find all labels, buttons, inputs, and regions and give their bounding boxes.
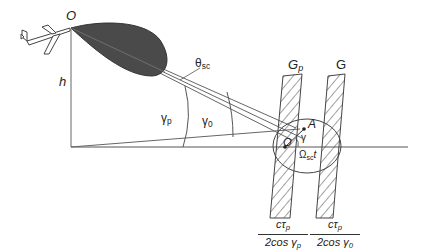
label-gamma-0: γ0 <box>202 115 213 128</box>
label-gamma-p: γp <box>161 112 172 125</box>
fraction-g-num: cτp <box>310 219 360 235</box>
fraction-gp-num: cτp <box>258 219 308 235</box>
fraction-gp-width: cτp 2cos γp <box>258 219 308 249</box>
omega-t: t <box>313 149 316 160</box>
airplane-icon <box>21 25 70 54</box>
label-origin: O <box>66 9 76 22</box>
label-strip-g: G <box>336 58 346 71</box>
strip-gp-symbol: G <box>288 57 298 72</box>
theta-sub: sc <box>202 61 210 71</box>
label-point-a: A <box>308 118 316 130</box>
label-strip-gp: Gp <box>288 58 303 73</box>
point-a <box>302 127 306 131</box>
strip-gp-sub: p <box>298 63 303 73</box>
fraction-g-num-main: cτ <box>328 218 338 230</box>
theta-symbol: θ <box>195 56 202 70</box>
antenna-lobe <box>71 23 167 76</box>
fraction-g-den: 2cos γ0 <box>310 235 360 250</box>
label-height: h <box>59 75 66 88</box>
fraction-g-den-main: 2cos γ <box>317 236 349 248</box>
gamma-p-sub: p <box>167 116 172 126</box>
fraction-gp-num-sub: p <box>286 223 290 232</box>
fraction-gp-den: 2cos γp <box>258 235 308 250</box>
label-center: O <box>283 137 292 148</box>
fraction-g-den-sub: 0 <box>349 241 353 250</box>
fraction-gp-den-main: 2cos γ <box>265 236 297 248</box>
gamma-0-sub: 0 <box>208 119 213 129</box>
label-gamma: γ <box>301 133 306 143</box>
label-theta-sc: θsc <box>195 57 210 70</box>
label-rotation: Ωsct <box>299 150 316 161</box>
fraction-gp-num-main: cτ <box>276 218 286 230</box>
fraction-g-num-sub: p <box>338 223 342 232</box>
fraction-gp-den-sub: p <box>297 241 301 250</box>
fraction-g-width: cτp 2cos γ0 <box>310 219 360 249</box>
